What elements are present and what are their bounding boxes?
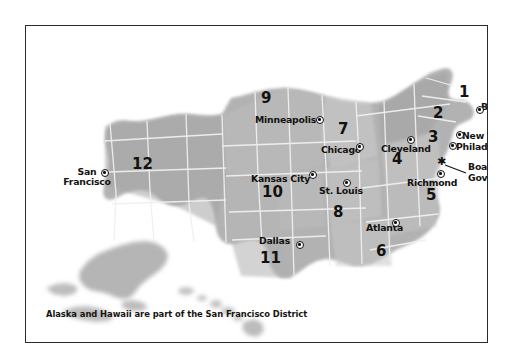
board-of-governors-label-line1: Board of bbox=[468, 162, 488, 171]
city-label-philadelphia: Philadelphia bbox=[456, 142, 488, 151]
district-number-5: 5 bbox=[426, 188, 436, 203]
city-marker-cleveland bbox=[407, 136, 415, 144]
city-marker-atlanta bbox=[392, 219, 400, 227]
city-label-san-francisco: San Francisco bbox=[51, 167, 123, 186]
city-label-richmond: Richmond bbox=[407, 178, 457, 187]
city-label-kansas-city: Kansas City bbox=[251, 174, 310, 183]
map-frame: 1 2 3 4 5 6 7 8 9 10 11 12 Boston New Yo… bbox=[25, 25, 488, 343]
district-number-8: 8 bbox=[333, 205, 343, 220]
district-number-7: 7 bbox=[338, 122, 348, 137]
city-label-minneapolis: Minneapolis bbox=[255, 115, 316, 124]
city-label-san-francisco-line2: Francisco bbox=[51, 177, 123, 187]
district-number-6: 6 bbox=[376, 244, 386, 259]
city-marker-richmond bbox=[437, 170, 445, 178]
board-of-governors-star-icon: ✱ bbox=[436, 156, 447, 167]
city-marker-new-york bbox=[456, 131, 464, 139]
city-marker-philadelphia bbox=[449, 142, 457, 150]
board-of-governors-label-line2: Governors bbox=[468, 173, 488, 182]
district-number-4: 4 bbox=[392, 152, 402, 167]
district-number-10: 10 bbox=[262, 185, 283, 200]
district-number-2: 2 bbox=[433, 106, 443, 121]
city-marker-kansas-city bbox=[309, 171, 317, 179]
city-marker-boston bbox=[476, 106, 484, 114]
district-number-1: 1 bbox=[459, 85, 469, 100]
city-label-cleveland: Cleveland bbox=[381, 144, 431, 153]
city-label-dallas: Dallas bbox=[259, 236, 290, 245]
district-number-9: 9 bbox=[261, 91, 271, 106]
city-marker-minneapolis bbox=[316, 116, 324, 124]
district-number-11: 11 bbox=[260, 251, 281, 266]
city-label-new-york: New York bbox=[462, 131, 488, 140]
city-label-st-louis: St. Louis bbox=[319, 186, 363, 195]
city-marker-st-louis bbox=[343, 179, 351, 187]
map-caption: Alaska and Hawaii are part of the San Fr… bbox=[46, 309, 307, 319]
city-marker-chicago bbox=[356, 143, 364, 151]
figure-root: 1 2 3 4 5 6 7 8 9 10 11 12 Boston New Yo… bbox=[0, 0, 511, 360]
city-marker-san-francisco bbox=[101, 169, 109, 177]
district-number-12: 12 bbox=[132, 157, 153, 172]
city-marker-dallas bbox=[296, 241, 304, 249]
